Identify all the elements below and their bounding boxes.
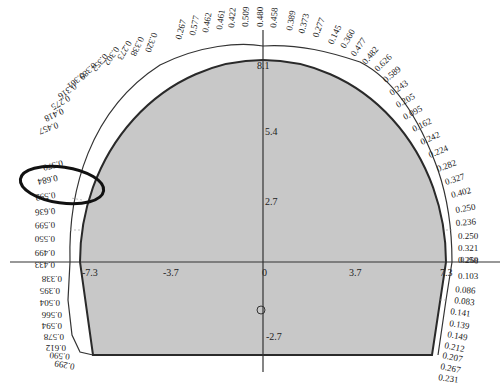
svg-text:0.504: 0.504 [39, 298, 60, 308]
svg-text:0.277: 0.277 [310, 16, 326, 39]
svg-text:0.433: 0.433 [34, 260, 55, 270]
svg-text:0.231: 0.231 [438, 372, 459, 385]
svg-text:0.599: 0.599 [34, 220, 55, 231]
svg-text:0.299: 0.299 [53, 358, 75, 371]
svg-text:0.086: 0.086 [455, 284, 477, 296]
svg-text:0.389: 0.389 [284, 9, 297, 31]
svg-text:0.282: 0.282 [435, 158, 457, 174]
svg-text:0.499: 0.499 [34, 248, 55, 258]
svg-text:0.250: 0.250 [455, 202, 477, 215]
svg-text:0.402: 0.402 [450, 185, 472, 200]
svg-text:0.321: 0.321 [458, 243, 478, 253]
x-tick-label: -3.7 [163, 267, 179, 278]
svg-text:0.141: 0.141 [450, 306, 471, 319]
svg-text:0.250: 0.250 [458, 231, 479, 241]
y-tick-label: 5.4 [265, 126, 278, 137]
svg-text:0.268: 0.268 [460, 255, 479, 266]
svg-text:0.636: 0.636 [34, 206, 56, 218]
svg-text:0.578: 0.578 [43, 332, 64, 342]
y-tick-label: 2.7 [265, 196, 278, 207]
svg-text:0.458: 0.458 [268, 7, 280, 29]
svg-text:0.594: 0.594 [41, 321, 62, 331]
svg-text:0.103: 0.103 [458, 271, 479, 281]
svg-text:0.684: 0.684 [36, 173, 58, 187]
svg-text:0.550: 0.550 [34, 234, 55, 244]
svg-text:0.462: 0.462 [200, 12, 213, 34]
svg-text:0.267: 0.267 [173, 18, 188, 41]
y-tick-label: -2.7 [266, 331, 282, 342]
svg-text:0.480: 0.480 [255, 6, 265, 27]
svg-text:0.224: 0.224 [427, 143, 450, 160]
svg-text:0.566: 0.566 [41, 310, 62, 320]
svg-text:0.327: 0.327 [444, 171, 467, 187]
left-value-labels: 0.599 0.550 0.499 0.433 0.338 0.395 0.50… [34, 220, 75, 372]
svg-text:0.236: 0.236 [455, 216, 477, 228]
svg-text:0.461: 0.461 [214, 9, 227, 30]
svg-text:0.577: 0.577 [187, 14, 201, 36]
svg-text:0.422: 0.422 [226, 7, 238, 28]
svg-text:0.083: 0.083 [454, 295, 476, 307]
x-tick-label: 0 [262, 267, 267, 278]
x-tick-label: 3.7 [349, 267, 362, 278]
y-tick-label: 8.1 [257, 60, 270, 71]
tunnel-diagram: -7.3 -3.7 0 3.7 7.3 8.1 5.4 2.7 -2.7 0.2… [0, 0, 503, 388]
svg-text:0.509: 0.509 [240, 6, 251, 27]
x-tick-label: -7.3 [82, 267, 98, 278]
svg-text:0.395: 0.395 [39, 286, 60, 296]
x-tick-label: 7.3 [440, 267, 453, 278]
svg-text:0.373: 0.373 [296, 12, 311, 35]
svg-text:0.338: 0.338 [41, 274, 62, 284]
